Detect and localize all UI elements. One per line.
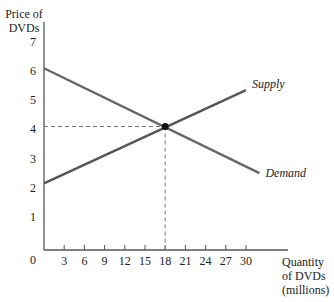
- x-tick-label: 6: [81, 254, 87, 268]
- x-tick-label: 3: [61, 254, 67, 268]
- supply-demand-chart: 36912151821242730 1234567 SupplyDemand P…: [0, 0, 334, 302]
- supply-line: [44, 90, 246, 183]
- x-tick-label: 21: [179, 254, 191, 268]
- demand-label: Demand: [264, 166, 307, 180]
- y-axis-label-line-1: Price of: [5, 7, 43, 21]
- x-tick-label: 15: [139, 254, 151, 268]
- x-axis-label-line-1: Quantity: [282, 255, 324, 269]
- equilibrium-guides: [44, 127, 165, 250]
- demand-line: [44, 68, 259, 173]
- y-tick-label: 7: [30, 35, 36, 49]
- x-ticks: 36912151821242730: [61, 245, 252, 268]
- x-axis-label-line-3: (millions): [282, 283, 329, 297]
- y-tick-label: 3: [30, 152, 36, 166]
- y-tick-label: 6: [30, 64, 36, 78]
- x-tick-label: 27: [220, 254, 232, 268]
- x-tick-label: 12: [119, 254, 131, 268]
- x-tick-label: 18: [159, 254, 171, 268]
- y-tick-label: 1: [30, 210, 36, 224]
- origin-label: 0: [30, 253, 36, 267]
- equilibrium-point: [162, 123, 169, 130]
- axes: [44, 22, 288, 250]
- y-tick-label: 2: [30, 181, 36, 195]
- supply-label: Supply: [252, 77, 285, 91]
- y-axis-label-line-2: DVDs: [9, 21, 40, 35]
- x-tick-label: 9: [102, 254, 108, 268]
- x-axis-label-line-2: of DVDs: [282, 269, 326, 283]
- x-tick-label: 24: [200, 254, 212, 268]
- y-tick-label: 5: [30, 93, 36, 107]
- x-tick-label: 30: [240, 254, 252, 268]
- series: SupplyDemand: [44, 68, 307, 183]
- y-ticks: 1234567: [30, 35, 36, 224]
- y-tick-label: 4: [30, 122, 36, 136]
